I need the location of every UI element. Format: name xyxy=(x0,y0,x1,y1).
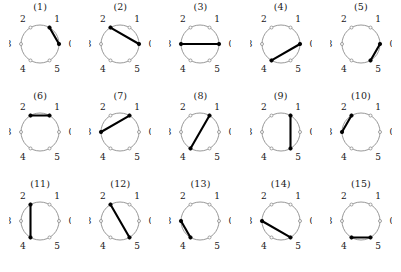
vertex-marker-4 xyxy=(29,58,32,61)
hexagon-graph: 012345 xyxy=(169,101,231,163)
vertex-label-4: 4 xyxy=(261,152,267,162)
chord-diagram: (15)012345 xyxy=(321,179,401,268)
vertex-marker-5 xyxy=(128,236,131,239)
vertex-label-5: 5 xyxy=(295,152,301,162)
outer-circle xyxy=(342,202,380,240)
vertex-label-3: 3 xyxy=(330,38,333,48)
chord-diagram: (11)012345 xyxy=(0,179,80,268)
vertex-label-1: 1 xyxy=(54,102,60,112)
diagram-caption: (9) xyxy=(274,91,288,101)
vertex-marker-2 xyxy=(29,26,32,29)
diagram-caption: (6) xyxy=(33,91,47,101)
vertex-marker-0 xyxy=(298,42,301,45)
chord-edge xyxy=(111,204,130,237)
chord-diagram: (3)012345 xyxy=(160,2,240,91)
vertex-marker-5 xyxy=(48,58,51,61)
vertex-label-3: 3 xyxy=(9,216,12,226)
vertex-label-5: 5 xyxy=(215,63,221,73)
hexagon-graph: 012345 xyxy=(250,101,312,163)
chord-diagram: (13)012345 xyxy=(160,179,240,268)
vertex-label-1: 1 xyxy=(215,14,221,24)
vertex-label-5: 5 xyxy=(295,63,301,73)
chord-diagram: (2)012345 xyxy=(80,2,160,91)
vertex-label-5: 5 xyxy=(135,240,141,250)
chord-diagram-grid: (1)012345(2)012345(3)012345(4)012345(5)0… xyxy=(0,0,401,272)
vertex-label-2: 2 xyxy=(341,14,347,24)
vertex-marker-3 xyxy=(100,219,103,222)
vertex-label-1: 1 xyxy=(135,14,141,24)
vertex-label-5: 5 xyxy=(215,240,221,250)
outer-circle xyxy=(21,202,59,240)
vertex-marker-4 xyxy=(189,58,192,61)
vertex-marker-0 xyxy=(298,131,301,134)
vertex-marker-4 xyxy=(350,236,353,239)
vertex-label-0: 0 xyxy=(229,38,232,48)
vertex-label-0: 0 xyxy=(229,127,232,137)
hexagon-graph: 012345 xyxy=(9,13,71,75)
vertex-marker-3 xyxy=(100,130,103,133)
vertex-label-2: 2 xyxy=(181,14,187,24)
vertex-label-3: 3 xyxy=(169,127,172,137)
chord-edge xyxy=(101,116,130,132)
vertex-label-1: 1 xyxy=(54,191,60,201)
vertex-marker-4 xyxy=(29,147,32,150)
vertex-label-4: 4 xyxy=(20,152,26,162)
vertex-marker-5 xyxy=(48,236,51,239)
vertex-label-4: 4 xyxy=(341,240,347,250)
hexagon-graph: 012345 xyxy=(330,13,392,75)
vertex-label-5: 5 xyxy=(375,63,381,73)
chord-diagram: (8)012345 xyxy=(160,91,240,180)
vertex-marker-2 xyxy=(189,114,192,117)
outer-circle xyxy=(21,113,59,151)
vertex-label-2: 2 xyxy=(341,191,347,201)
vertex-label-0: 0 xyxy=(149,38,152,48)
vertex-marker-3 xyxy=(340,219,343,222)
vertex-label-2: 2 xyxy=(20,14,26,24)
vertex-marker-3 xyxy=(260,42,263,45)
vertex-label-0: 0 xyxy=(69,216,72,226)
outer-circle xyxy=(101,113,139,151)
outer-circle xyxy=(262,25,300,63)
chord-diagram: (1)012345 xyxy=(0,2,80,91)
vertex-label-0: 0 xyxy=(309,38,312,48)
vertex-marker-4 xyxy=(189,236,192,239)
vertex-label-3: 3 xyxy=(9,127,12,137)
vertex-label-1: 1 xyxy=(375,102,381,112)
vertex-marker-4 xyxy=(29,236,32,239)
vertex-label-1: 1 xyxy=(215,191,221,201)
chord-diagram: (6)012345 xyxy=(0,91,80,180)
vertex-label-5: 5 xyxy=(135,63,141,73)
chord-diagram: (12)012345 xyxy=(80,179,160,268)
hexagon-graph: 012345 xyxy=(250,13,312,75)
vertex-marker-5 xyxy=(208,147,211,150)
vertex-label-0: 0 xyxy=(389,38,392,48)
vertex-marker-0 xyxy=(138,219,141,222)
vertex-label-1: 1 xyxy=(375,191,381,201)
vertex-marker-0 xyxy=(378,219,381,222)
vertex-marker-4 xyxy=(269,58,272,61)
diagram-caption: (7) xyxy=(113,91,127,101)
diagram-caption: (11) xyxy=(30,179,50,189)
vertex-label-5: 5 xyxy=(375,152,381,162)
vertex-marker-5 xyxy=(208,58,211,61)
vertex-label-1: 1 xyxy=(135,102,141,112)
vertex-marker-4 xyxy=(109,147,112,150)
vertex-label-4: 4 xyxy=(261,240,267,250)
vertex-label-1: 1 xyxy=(215,102,221,112)
vertex-label-0: 0 xyxy=(389,127,392,137)
vertex-label-2: 2 xyxy=(20,102,26,112)
hexagon-graph: 012345 xyxy=(169,190,231,252)
vertex-label-0: 0 xyxy=(309,127,312,137)
outer-circle xyxy=(262,113,300,151)
vertex-marker-5 xyxy=(208,236,211,239)
vertex-marker-1 xyxy=(288,114,291,117)
vertex-label-2: 2 xyxy=(100,102,106,112)
vertex-marker-1 xyxy=(128,203,131,206)
diagram-caption: (10) xyxy=(351,91,371,101)
vertex-marker-0 xyxy=(298,219,301,222)
vertex-marker-0 xyxy=(58,131,61,134)
diagram-caption: (14) xyxy=(271,179,291,189)
chord-diagram: (4)012345 xyxy=(241,2,321,91)
vertex-label-2: 2 xyxy=(181,102,187,112)
vertex-marker-5 xyxy=(369,236,372,239)
